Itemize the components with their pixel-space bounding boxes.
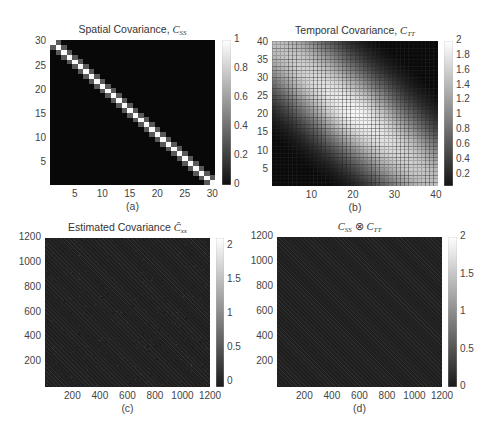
y-tick-label: 10: [35, 132, 46, 143]
colorbar-tick-label: 0.5: [227, 341, 241, 352]
y-tick-label: 800: [24, 281, 41, 292]
x-tick-label: 1000: [171, 390, 193, 401]
x-tick-label: 20: [152, 188, 163, 199]
title-subscript-2: TT: [374, 226, 382, 234]
title-subscript: SS: [179, 29, 186, 37]
colorbar-tick-label: 0.2: [456, 168, 470, 179]
y-tick-label: 10: [257, 145, 268, 156]
y-tick-label: 15: [35, 108, 46, 119]
y-tick-label: 25: [35, 60, 46, 71]
x-tick-label: 200: [296, 390, 313, 401]
colorbar-tick-label: 0.6: [234, 91, 248, 102]
y-tick-label: 35: [257, 54, 268, 65]
kronecker-operator: ⊗: [352, 220, 367, 232]
colorbar-tick-label: 0.2: [234, 149, 248, 160]
y-tick-label: 5: [40, 156, 46, 167]
colorbar-tick-label: 0.4: [234, 120, 248, 131]
x-tick-label: 1000: [403, 390, 425, 401]
colorbar-tick-label: 0.5: [460, 343, 474, 354]
y-tick-label: 5: [262, 163, 268, 174]
panel-title-b: Temporal Covariance, CTT: [295, 24, 415, 38]
panel-title-a: Spatial Covariance, CSS: [79, 23, 187, 37]
panel-caption-c: (c): [121, 402, 133, 414]
y-tick-label: 600: [256, 305, 273, 316]
title-subscript: SS: [345, 226, 352, 234]
colorbar-d: [448, 237, 457, 387]
colorbar-tick-label: 0: [227, 375, 233, 386]
panel-title-d: CSS ⊗ CTT: [338, 220, 382, 234]
colorbar-c: [216, 238, 224, 387]
x-tick-label: 30: [389, 189, 400, 200]
title-symbol: Ĉ: [174, 222, 181, 233]
x-tick-label: 10: [97, 188, 108, 199]
heatmap-b: [272, 41, 438, 186]
y-tick-label: 30: [257, 72, 268, 83]
title-text: Spatial Covariance,: [79, 23, 173, 35]
x-tick-label: 800: [147, 390, 164, 401]
title-text: Temporal Covariance,: [295, 24, 400, 36]
y-tick-label: 400: [24, 330, 41, 341]
colorbar-tick-label: 1.5: [460, 268, 474, 279]
colorbar-tick-label: 0.8: [456, 123, 470, 134]
colorbar-tick-label: 0.6: [456, 138, 470, 149]
colorbar-tick-label: 1.5: [227, 273, 241, 284]
colorbar-tick-label: 1.6: [456, 64, 470, 75]
y-tick-label: 1200: [251, 230, 273, 241]
y-tick-label: 20: [35, 84, 46, 95]
title-symbol-2: C: [367, 221, 374, 232]
y-tick-label: 600: [24, 306, 41, 317]
title-subscript: TT: [407, 30, 415, 38]
x-tick-label: 25: [179, 188, 190, 199]
colorbar-tick-label: 2: [460, 230, 466, 241]
panel-caption-b: (b): [349, 201, 362, 213]
colorbar-tick-label: 1: [234, 33, 240, 44]
colorbar-tick-label: 1.2: [456, 93, 470, 104]
colorbar-tick-label: 0.8: [234, 62, 248, 73]
colorbar-b: [444, 41, 453, 186]
panel-caption-d: (d): [353, 402, 366, 414]
x-tick-label: 1200: [199, 390, 221, 401]
colorbar-tick-label: 2: [456, 34, 462, 45]
y-tick-label: 20: [257, 108, 268, 119]
x-tick-label: 30: [207, 188, 218, 199]
panel-caption-a: (a): [126, 200, 139, 212]
y-tick-label: 40: [257, 36, 268, 47]
title-subscript: xx: [181, 227, 187, 235]
colorbar-tick-label: 1.4: [456, 79, 470, 90]
x-tick-label: 5: [72, 188, 78, 199]
colorbar-tick-label: 1: [227, 307, 233, 318]
heatmap-c: [45, 238, 210, 387]
x-tick-label: 800: [379, 390, 396, 401]
x-tick-label: 200: [64, 390, 81, 401]
heatmap-a: [50, 40, 215, 185]
y-tick-label: 1200: [19, 231, 41, 242]
colorbar-tick-label: 1: [456, 108, 462, 119]
y-tick-label: 200: [256, 355, 273, 366]
x-tick-label: 400: [324, 390, 341, 401]
colorbar-a: [222, 40, 231, 185]
y-tick-label: 25: [257, 90, 268, 101]
y-tick-label: 15: [257, 126, 268, 137]
colorbar-tick-label: 0.4: [456, 153, 470, 164]
panel-title-c: Estimated Covariance Ĉxx: [68, 221, 187, 235]
y-tick-label: 1000: [251, 255, 273, 266]
x-tick-label: 400: [92, 390, 109, 401]
x-tick-label: 40: [430, 189, 441, 200]
colorbar-tick-label: 1: [460, 305, 466, 316]
heatmap-d: [277, 237, 442, 387]
y-tick-label: 30: [35, 35, 46, 46]
title-symbol: C: [338, 221, 345, 232]
colorbar-tick-label: 0: [460, 380, 466, 391]
colorbar-tick-label: 1.8: [456, 49, 470, 60]
y-tick-label: 800: [256, 280, 273, 291]
y-tick-label: 400: [256, 330, 273, 341]
x-tick-label: 1200: [431, 390, 453, 401]
title-text: Estimated Covariance: [68, 221, 174, 233]
x-tick-label: 10: [306, 189, 317, 200]
colorbar-tick-label: 2: [227, 239, 233, 250]
y-tick-label: 1000: [19, 256, 41, 267]
y-tick-label: 200: [24, 355, 41, 366]
colorbar-tick-label: 0: [234, 178, 240, 189]
x-tick-label: 15: [124, 188, 135, 199]
x-tick-label: 600: [351, 390, 368, 401]
